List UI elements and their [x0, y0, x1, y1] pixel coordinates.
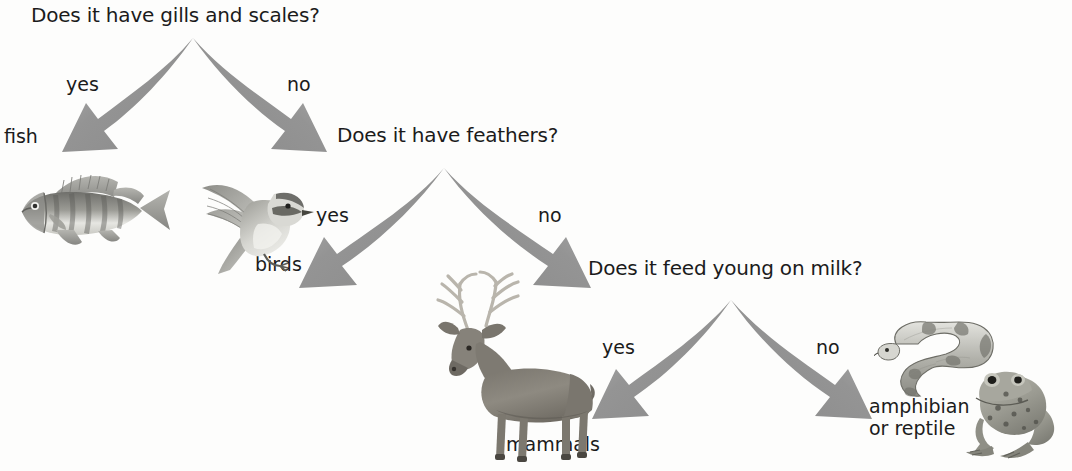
branch-label-q2-no: no: [538, 205, 562, 226]
question-feathers: Does it have feathers?: [337, 124, 558, 146]
fish-perch-illustration: [14, 168, 174, 252]
frog-illustration: [962, 358, 1070, 462]
question-gills-and-scales: Does it have gills and scales?: [31, 4, 320, 26]
branch-label-q1-yes: yes: [66, 74, 99, 95]
question-feed-young-on-milk: Does it feed young on milk?: [588, 257, 862, 279]
terminal-label-fish: fish: [4, 126, 38, 147]
bird-bluetit-illustration: [196, 168, 326, 280]
branch-label-q3-no: no: [816, 337, 840, 358]
decision-tree-diagram: Does it have gills and scales? Does it h…: [0, 0, 1072, 471]
deer-stag-illustration: [424, 268, 620, 464]
branch-label-q1-no: no: [287, 74, 311, 95]
arrow-q3-no: [731, 300, 872, 419]
